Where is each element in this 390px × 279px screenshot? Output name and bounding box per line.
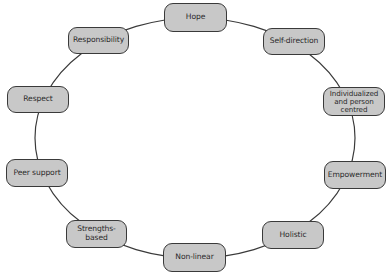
node-strengths-based: Strengths- based xyxy=(66,220,127,248)
node-non-linear: Non-linear xyxy=(163,243,226,272)
cycle-connector-ring xyxy=(0,0,390,279)
node-respect: Respect xyxy=(7,86,69,113)
node-label: Hope xyxy=(186,13,205,22)
node-hope: Hope xyxy=(164,3,227,32)
node-responsibility: Responsibility xyxy=(68,27,129,54)
recovery-principles-cycle-diagram: Hope Self-direction Individualized and p… xyxy=(0,0,390,279)
node-label: Strengths- based xyxy=(77,225,116,242)
node-label: Peer support xyxy=(13,169,60,178)
node-label: Individualized and person centred xyxy=(330,90,378,114)
node-label: Self-direction xyxy=(270,37,318,46)
node-peer-support: Peer support xyxy=(6,159,68,187)
node-empowerment: Empowerment xyxy=(324,161,386,189)
node-self-direction: Self-direction xyxy=(263,28,325,55)
node-label: Responsibility xyxy=(73,36,124,45)
node-holistic: Holistic xyxy=(262,221,324,249)
node-label: Holistic xyxy=(280,231,307,240)
node-label: Empowerment xyxy=(328,171,382,180)
node-individualized-person-centred: Individualized and person centred xyxy=(323,87,385,116)
node-label: Respect xyxy=(23,95,53,104)
node-label: Non-linear xyxy=(175,253,213,262)
